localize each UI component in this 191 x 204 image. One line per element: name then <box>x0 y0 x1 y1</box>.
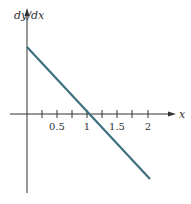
tick-label-1: 1 <box>84 121 90 132</box>
x-axis-label: x <box>179 108 186 121</box>
tick-label-2: 2 <box>145 121 151 132</box>
tick-label-0-5: 0.5 <box>49 121 65 132</box>
derivative-chart: dy/dx x 0.5 1 1.5 2 <box>0 0 191 204</box>
tick-label-1-5: 1.5 <box>109 121 125 132</box>
y-axis-label: dy/dx <box>14 9 45 22</box>
x-axis-arrow-icon <box>168 112 176 117</box>
